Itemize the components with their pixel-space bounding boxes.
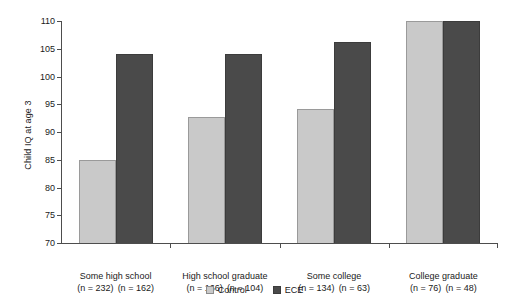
y-tick-label: 95 <box>21 100 55 109</box>
y-tick-mark <box>57 243 61 244</box>
bar-control <box>406 21 443 243</box>
x-axis-category-text: Some high school <box>61 270 170 282</box>
plot-area: 110 105 100 95 90 85 80 75 70 <box>61 21 498 243</box>
legend-label-control: Control <box>218 285 247 295</box>
bar-group <box>61 21 170 243</box>
bar-group <box>170 21 279 243</box>
y-tick-label: 100 <box>21 73 55 82</box>
bar-group-bars <box>389 21 498 243</box>
x-axis-separator <box>389 243 390 248</box>
bar-group <box>280 21 389 243</box>
bar-group <box>389 21 498 243</box>
x-axis-category-text: High school graduate <box>170 270 279 282</box>
legend-item-ece: ECE <box>273 285 304 295</box>
bar-control <box>297 109 334 243</box>
bar-group-bars <box>170 21 279 243</box>
dark-gray-swatch-icon <box>273 286 281 294</box>
y-tick-label: 80 <box>21 184 55 193</box>
light-gray-swatch-icon <box>206 286 214 294</box>
x-axis-separator <box>280 243 281 248</box>
bar-control <box>188 117 225 243</box>
bar-chart: Child IQ at age 3 110 105 100 95 90 85 8… <box>0 0 509 308</box>
y-tick-label: 85 <box>21 156 55 165</box>
bar-ece <box>225 54 262 243</box>
x-axis-category-text: Some college <box>280 270 389 282</box>
x-axis-separator <box>497 243 498 248</box>
y-tick-label: 75 <box>21 211 55 220</box>
y-tick-label: 90 <box>21 128 55 137</box>
y-tick-label: 105 <box>21 45 55 54</box>
y-tick-label: 70 <box>21 239 55 248</box>
bar-ece <box>334 42 371 243</box>
chart-legend: Control ECE <box>0 285 509 295</box>
bar-ece <box>443 21 480 243</box>
y-tick-label: 110 <box>21 17 55 26</box>
bar-group-bars <box>61 21 170 243</box>
legend-item-control: Control <box>206 285 247 295</box>
bar-control <box>79 160 116 243</box>
x-axis-category-text: College graduate <box>389 270 498 282</box>
x-axis-separator <box>170 243 171 248</box>
bar-group-bars <box>280 21 389 243</box>
legend-label-ece: ECE <box>285 285 304 295</box>
bar-ece <box>116 54 153 243</box>
